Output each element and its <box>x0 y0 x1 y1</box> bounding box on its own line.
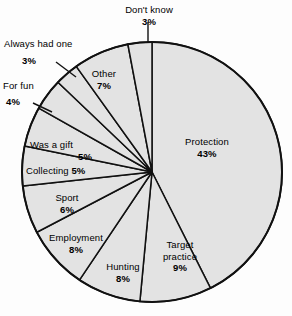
slice-label-dont-know-name: Don't know <box>106 4 192 16</box>
slice-label-dont-know-percent: 3% <box>106 16 192 28</box>
slice-label-for-fun-name-wrap: For fun <box>3 80 34 92</box>
slice-label-hunting: Hunting 8% <box>98 261 148 284</box>
slice-label-dont-know: Don't know 3% <box>106 4 192 27</box>
slice-label-always-had-one-percent: 3% <box>22 55 36 66</box>
slice-label-target-practice: Target practice 9% <box>150 239 210 274</box>
slice-label-was-a-gift-name: Was a gift <box>30 139 73 150</box>
slice-label-always-had-one-name-wrap: Always had one <box>4 38 72 50</box>
slice-label-for-fun-percent-wrap: 4% <box>6 96 20 108</box>
slice-label-collecting: Collecting 5% <box>26 165 85 177</box>
slice-label-employment-name: Employment <box>38 232 114 244</box>
slice-label-hunting-percent: 8% <box>98 273 148 285</box>
slice-label-target-practice-name2: practice <box>150 251 210 263</box>
slice-label-other-percent: 7% <box>78 80 130 92</box>
slice-label-was-a-gift-percent-wrap: 5% <box>78 151 92 163</box>
slice-label-was-a-gift-percent: 5% <box>78 151 92 162</box>
slice-label-protection: Protection 43% <box>168 136 246 159</box>
slice-label-collecting-name: Collecting <box>26 165 69 176</box>
slice-label-other-name: Other <box>78 68 130 80</box>
slice-label-sport-name: Sport <box>42 192 92 204</box>
pie-chart-figure: Don't know 3% Always had one 3% For fun … <box>0 0 292 316</box>
slice-label-other: Other 7% <box>78 68 130 91</box>
slice-label-always-had-one-name: Always had one <box>4 38 72 49</box>
slice-label-target-practice-percent: 9% <box>150 262 210 274</box>
slice-label-always-had-one-percent-wrap: 3% <box>22 55 36 67</box>
slice-label-sport-percent: 6% <box>42 204 92 216</box>
slice-label-for-fun-name: For fun <box>3 80 34 91</box>
slice-label-protection-percent: 43% <box>168 148 246 160</box>
slice-label-hunting-name: Hunting <box>98 261 148 273</box>
slice-label-employment: Employment 8% <box>38 232 114 255</box>
slice-label-protection-name: Protection <box>168 136 246 148</box>
slice-label-employment-percent: 8% <box>38 244 114 256</box>
slice-label-target-practice-name: Target <box>150 239 210 251</box>
slice-label-was-a-gift-name-wrap: Was a gift <box>30 139 73 151</box>
slice-label-sport: Sport 6% <box>42 192 92 215</box>
slice-label-collecting-percent: 5% <box>71 165 85 176</box>
slice-label-for-fun-percent: 4% <box>6 96 20 107</box>
